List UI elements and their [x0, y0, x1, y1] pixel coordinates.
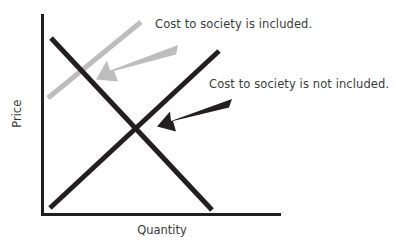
chart-canvas	[0, 0, 397, 244]
y-axis-label: Price	[12, 84, 24, 144]
annotation-cost-not-included: Cost to society is not included.	[209, 79, 389, 91]
supply-demand-chart: Cost to society is included. Cost to soc…	[0, 0, 397, 244]
black-annotation-arrow	[157, 99, 232, 132]
x-axis-label: Quantity	[42, 225, 282, 237]
annotation-cost-included: Cost to society is included.	[155, 19, 312, 31]
